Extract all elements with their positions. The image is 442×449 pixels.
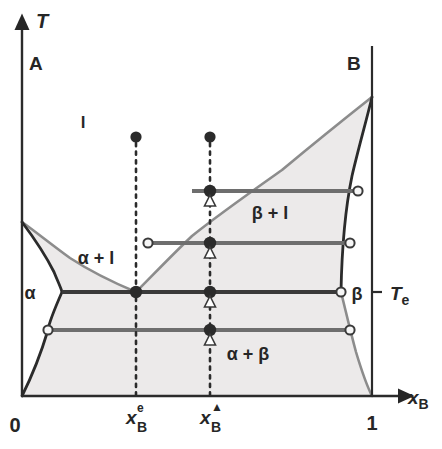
shaded-fields (22, 97, 372, 396)
phase-label-alpha: α (24, 283, 35, 303)
eutectic-temp-sub: e (402, 292, 410, 308)
alloy-composition-sub: B (211, 419, 221, 435)
phase-diagram-canvas: T A B 0 1 xB Te x B e x B ▲ l α (0, 0, 442, 449)
alloy-composition-sup: ▲ (211, 400, 223, 414)
marker-open-beta-upper (353, 186, 362, 195)
x-axis-end-label: 1 (366, 412, 377, 434)
eutectic-composition-label: x B e (125, 401, 147, 435)
phase-label-beta: β (352, 284, 363, 304)
phase-diagram-figure: T A B 0 1 xB Te x B e x B ▲ l α (0, 0, 442, 449)
x-axis-label: xB (407, 387, 429, 412)
x-axis-origin-label: 0 (9, 414, 20, 436)
eutectic-temperature-label: Te (390, 283, 410, 308)
marker-open-beta-eutectic (336, 287, 345, 296)
triangle-marker-1 (205, 195, 216, 206)
phase-label-alpha-plus-beta: α + β (227, 344, 270, 364)
marker-open-beta-mid (345, 238, 354, 247)
phase-label-beta-plus-liquid: β + l (252, 203, 289, 223)
svg-text:Te: Te (390, 283, 410, 308)
eutectic-composition-sup: e (137, 401, 144, 415)
marker-dot-eutectic-point (130, 286, 142, 298)
y-axis-label: T (36, 10, 50, 32)
phase-label-liquid: l (81, 113, 86, 132)
marker-dot-eutectic-start (130, 131, 141, 142)
alloy-composition-label: x B ▲ (199, 400, 223, 435)
phase-label-alpha-plus-liquid: α + l (78, 248, 115, 268)
marker-open-liquidus-mid (143, 238, 152, 247)
field-alpha-plus-beta (22, 292, 372, 396)
x-axis-label-sub: B (419, 396, 429, 412)
marker-open-alpha-solvus (43, 325, 52, 334)
marker-dot-alloy-start (204, 131, 215, 142)
endmember-label-b: B (347, 53, 361, 74)
endmember-label-a: A (29, 53, 43, 74)
eutectic-composition-sub: B (137, 419, 147, 435)
svg-text:xB: xB (407, 387, 429, 412)
marker-open-beta-solvus (345, 325, 354, 334)
